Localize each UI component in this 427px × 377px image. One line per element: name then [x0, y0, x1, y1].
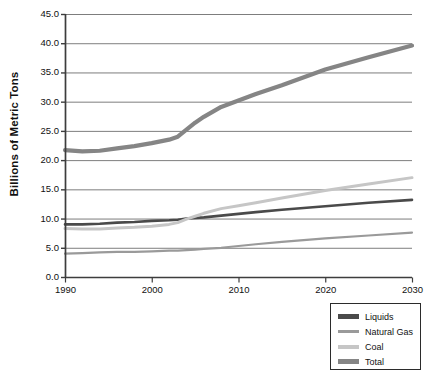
- series-line-natural-gas: [65, 233, 412, 254]
- line-chart: Billions of Metric Tons 0.05.010.015.020…: [0, 0, 427, 377]
- series-line-liquids: [65, 200, 412, 225]
- legend-swatch-icon: [338, 359, 359, 364]
- legend-swatch-icon: [338, 330, 359, 333]
- legend-label: Coal: [365, 342, 384, 352]
- axis-lines: [65, 14, 412, 278]
- chart-legend: LiquidsNatural GasCoalTotal: [330, 303, 421, 370]
- series-line-total: [65, 46, 412, 152]
- legend-item: Total: [331, 354, 420, 369]
- legend-item: Liquids: [331, 309, 420, 324]
- legend-swatch-icon: [338, 314, 359, 319]
- legend-item: Natural Gas: [331, 324, 420, 339]
- legend-label: Liquids: [365, 312, 394, 322]
- legend-item: Coal: [331, 339, 420, 354]
- legend-label: Total: [365, 357, 384, 367]
- series-lines: [65, 46, 412, 254]
- legend-swatch-icon: [338, 345, 359, 349]
- legend-label: Natural Gas: [365, 327, 413, 337]
